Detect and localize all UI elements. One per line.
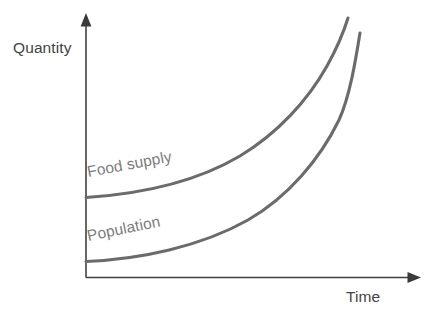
y-axis-arrow-icon xyxy=(81,13,92,27)
x-axis-arrow-icon xyxy=(408,272,422,283)
y-axis-label: Quantity xyxy=(13,39,72,57)
x-axis-label: Time xyxy=(346,288,380,306)
chart-canvas: Quantity Time Food supply Population xyxy=(0,0,433,323)
